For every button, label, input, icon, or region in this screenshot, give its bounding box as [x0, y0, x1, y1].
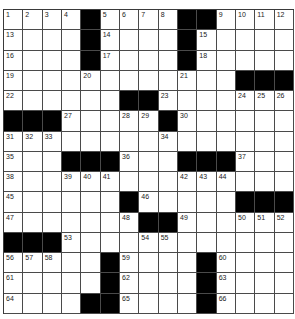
answer-cell[interactable]: 26: [275, 91, 294, 111]
answer-cell[interactable]: [217, 51, 236, 71]
answer-cell[interactable]: [217, 91, 236, 111]
answer-cell[interactable]: [23, 51, 42, 71]
answer-cell[interactable]: 25: [255, 91, 274, 111]
answer-cell[interactable]: [255, 294, 274, 314]
answer-cell[interactable]: [101, 233, 120, 253]
answer-cell[interactable]: 14: [101, 30, 120, 50]
answer-cell[interactable]: [43, 172, 62, 192]
answer-cell[interactable]: [62, 213, 81, 233]
answer-cell[interactable]: [197, 91, 216, 111]
answer-cell[interactable]: 53: [62, 233, 81, 253]
answer-cell[interactable]: 13: [4, 30, 23, 50]
answer-cell[interactable]: 43: [197, 172, 216, 192]
answer-cell[interactable]: [236, 51, 255, 71]
answer-cell[interactable]: 17: [101, 51, 120, 71]
answer-cell[interactable]: [120, 30, 139, 50]
answer-cell[interactable]: [120, 172, 139, 192]
answer-cell[interactable]: [81, 132, 100, 152]
answer-cell[interactable]: [139, 294, 158, 314]
answer-cell[interactable]: 55: [159, 233, 178, 253]
answer-cell[interactable]: 6: [120, 10, 139, 30]
answer-cell[interactable]: [159, 71, 178, 91]
answer-cell[interactable]: 34: [159, 132, 178, 152]
answer-cell[interactable]: [178, 294, 197, 314]
answer-cell[interactable]: 5: [101, 10, 120, 30]
answer-cell[interactable]: [178, 91, 197, 111]
answer-cell[interactable]: 64: [4, 294, 23, 314]
answer-cell[interactable]: 16: [4, 51, 23, 71]
answer-cell[interactable]: [62, 192, 81, 212]
answer-cell[interactable]: [197, 233, 216, 253]
answer-cell[interactable]: [255, 172, 274, 192]
answer-cell[interactable]: [23, 71, 42, 91]
answer-cell[interactable]: 54: [139, 233, 158, 253]
answer-cell[interactable]: [81, 192, 100, 212]
answer-cell[interactable]: [43, 51, 62, 71]
answer-cell[interactable]: 12: [275, 10, 294, 30]
answer-cell[interactable]: [255, 111, 274, 131]
answer-cell[interactable]: 58: [43, 253, 62, 273]
answer-cell[interactable]: 29: [139, 111, 158, 131]
answer-cell[interactable]: [217, 192, 236, 212]
answer-cell[interactable]: [217, 213, 236, 233]
answer-cell[interactable]: [159, 30, 178, 50]
answer-cell[interactable]: [217, 132, 236, 152]
answer-cell[interactable]: 30: [178, 111, 197, 131]
answer-cell[interactable]: [217, 111, 236, 131]
answer-cell[interactable]: [159, 51, 178, 71]
answer-cell[interactable]: 42: [178, 172, 197, 192]
answer-cell[interactable]: [101, 192, 120, 212]
answer-cell[interactable]: 39: [62, 172, 81, 192]
answer-cell[interactable]: [255, 273, 274, 293]
answer-cell[interactable]: [139, 71, 158, 91]
answer-cell[interactable]: [43, 30, 62, 50]
answer-cell[interactable]: [197, 192, 216, 212]
answer-cell[interactable]: [217, 233, 236, 253]
answer-cell[interactable]: [43, 152, 62, 172]
answer-cell[interactable]: 50: [236, 213, 255, 233]
answer-cell[interactable]: [255, 253, 274, 273]
answer-cell[interactable]: [197, 71, 216, 91]
answer-cell[interactable]: [120, 51, 139, 71]
answer-cell[interactable]: [43, 294, 62, 314]
answer-cell[interactable]: [101, 132, 120, 152]
answer-cell[interactable]: [159, 294, 178, 314]
answer-cell[interactable]: 24: [236, 91, 255, 111]
answer-cell[interactable]: [43, 192, 62, 212]
answer-cell[interactable]: [255, 152, 274, 172]
answer-cell[interactable]: [23, 273, 42, 293]
answer-cell[interactable]: [236, 30, 255, 50]
answer-cell[interactable]: 38: [4, 172, 23, 192]
answer-cell[interactable]: 18: [197, 51, 216, 71]
answer-cell[interactable]: [23, 172, 42, 192]
answer-cell[interactable]: [120, 71, 139, 91]
answer-cell[interactable]: [275, 152, 294, 172]
answer-cell[interactable]: 45: [4, 192, 23, 212]
answer-cell[interactable]: 47: [4, 213, 23, 233]
answer-cell[interactable]: [23, 30, 42, 50]
answer-cell[interactable]: [236, 132, 255, 152]
answer-cell[interactable]: 65: [120, 294, 139, 314]
answer-cell[interactable]: [43, 273, 62, 293]
answer-cell[interactable]: 56: [4, 253, 23, 273]
answer-cell[interactable]: [43, 91, 62, 111]
answer-cell[interactable]: [139, 273, 158, 293]
answer-cell[interactable]: 62: [120, 273, 139, 293]
answer-cell[interactable]: [23, 213, 42, 233]
answer-cell[interactable]: 66: [217, 294, 236, 314]
answer-cell[interactable]: [139, 253, 158, 273]
answer-cell[interactable]: [275, 253, 294, 273]
answer-cell[interactable]: [159, 273, 178, 293]
answer-cell[interactable]: [23, 294, 42, 314]
answer-cell[interactable]: [178, 233, 197, 253]
answer-cell[interactable]: [178, 192, 197, 212]
answer-cell[interactable]: [178, 273, 197, 293]
answer-cell[interactable]: 3: [43, 10, 62, 30]
answer-cell[interactable]: 33: [43, 132, 62, 152]
answer-cell[interactable]: [236, 273, 255, 293]
answer-cell[interactable]: [275, 132, 294, 152]
answer-cell[interactable]: 59: [120, 253, 139, 273]
answer-cell[interactable]: 35: [4, 152, 23, 172]
answer-cell[interactable]: [255, 30, 274, 50]
answer-cell[interactable]: [139, 132, 158, 152]
